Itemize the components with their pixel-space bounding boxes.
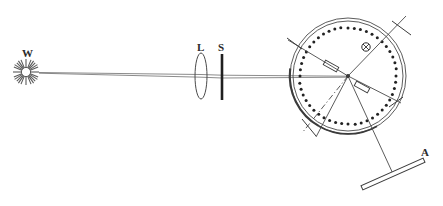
starburst-icon [13, 59, 39, 85]
slit-group: S [218, 41, 224, 100]
optical-spectrometer-diagram: W L S [0, 0, 443, 206]
mark-lower-right [389, 97, 403, 107]
lens-icon [195, 53, 207, 99]
source-label: W [22, 47, 33, 59]
analyzer-plate-icon [361, 158, 425, 190]
arm-lower-left-solid [316, 76, 348, 137]
arm-right-mid [348, 76, 401, 103]
center-pivot [346, 74, 349, 77]
slit-label: S [218, 41, 224, 53]
analyzer-label: A [421, 146, 429, 158]
arms-group [288, 16, 406, 176]
source-starburst-group: W [13, 47, 39, 85]
lens-label: L [197, 41, 204, 53]
mark-lower-left [302, 119, 316, 136]
arm-lower-right [348, 76, 394, 176]
lens-group: L [195, 41, 207, 99]
adjust-screw-group [362, 43, 370, 51]
analyzer-group: A [361, 146, 429, 190]
diagram-canvas: W L S [0, 0, 443, 206]
